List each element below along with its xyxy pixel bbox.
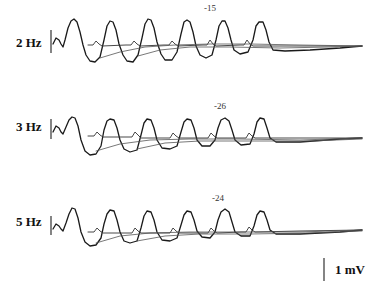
panel-5hz-traces bbox=[51, 208, 362, 246]
panel-2hz-traces bbox=[51, 19, 362, 62]
panel-5hz-label: 5 Hz bbox=[16, 214, 42, 230]
waveform-traces bbox=[0, 0, 380, 292]
panel-2hz-label: 2 Hz bbox=[16, 35, 42, 51]
panel-3hz-traces bbox=[51, 117, 362, 155]
scale-bar-label: 1 mV bbox=[335, 262, 365, 278]
panel-5hz-annotation: -24 bbox=[212, 193, 224, 203]
panel-3hz-label: 3 Hz bbox=[16, 119, 42, 135]
panel-3hz-annotation: -26 bbox=[214, 101, 226, 111]
panel-2hz-annotation: -15 bbox=[204, 3, 216, 13]
